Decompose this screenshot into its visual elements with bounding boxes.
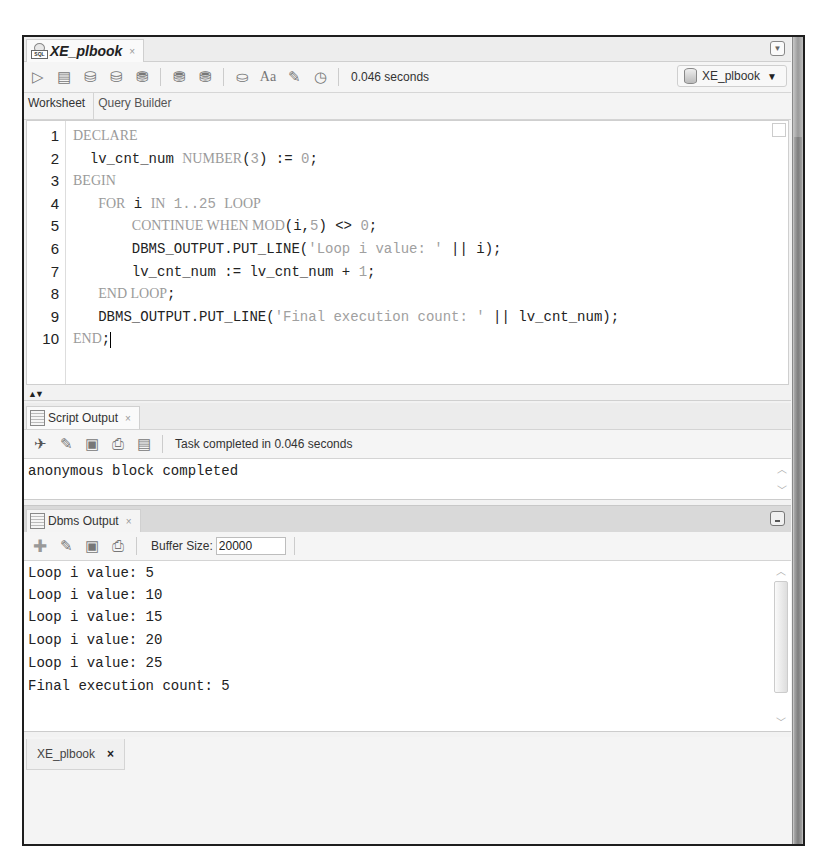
scroll-down-icon[interactable]: ﹀ <box>773 714 789 729</box>
format-case-icon[interactable]: Aa <box>258 67 278 87</box>
output-line: Loop i value: 5 <box>28 565 154 581</box>
database-icon <box>684 68 697 84</box>
code-line[interactable]: END; <box>73 331 111 347</box>
sql-worksheet-icon: SQL <box>31 43 47 59</box>
code-token: DBMS_OUTPUT.PUT_LINE( <box>132 241 308 257</box>
dbms-output-scrollbar[interactable]: ︿ ﹀ <box>773 563 789 729</box>
save-icon[interactable]: ▣ <box>82 434 102 454</box>
code-token: ; <box>309 151 317 167</box>
close-icon[interactable]: × <box>125 413 131 424</box>
code-line[interactable]: DECLARE <box>73 128 138 144</box>
keyword-token: DECLARE <box>73 128 138 143</box>
code-line[interactable]: END LOOP; <box>73 286 175 302</box>
document-tab[interactable]: SQL XE_plbook × <box>26 39 144 62</box>
autotrace-icon[interactable]: ⛃ <box>169 67 189 87</box>
line-number: 5 <box>51 217 59 234</box>
line-number: 1 <box>51 127 59 144</box>
code-line[interactable]: CONTINUE WHEN MOD(i,5) <> 0; <box>73 218 377 234</box>
toolbar-separator <box>294 537 295 555</box>
sql-tuning-icon[interactable]: ⛃ <box>195 67 215 87</box>
script-output-scrollbar[interactable]: ︿ ﹀ <box>775 461 789 497</box>
literal-token: 'Final execution count: ' <box>275 309 485 325</box>
toolbar-separator <box>223 68 224 86</box>
dropdown-arrow-icon[interactable]: ▼ <box>770 41 785 56</box>
run-statement-icon[interactable]: ▷ <box>28 67 48 87</box>
scrollbar-thumb[interactable] <box>774 581 788 693</box>
code-line[interactable]: DBMS_OUTPUT.PUT_LINE('Loop i value: ' ||… <box>73 241 501 257</box>
literal-token: 1 <box>359 264 367 280</box>
connection-label: XE_plbook <box>702 69 760 83</box>
code-editor[interactable]: 12345678910 DECLARE lv_cnt_num NUMBER(3)… <box>26 120 789 385</box>
indent <box>73 309 98 325</box>
close-icon[interactable]: × <box>129 46 135 57</box>
indent <box>73 241 132 257</box>
indent <box>73 151 90 167</box>
connection-tab-bar: XE_plbook × <box>24 737 791 844</box>
tab-connection[interactable]: XE_plbook × <box>26 739 125 770</box>
splitter-arrows-icon[interactable]: ▲▼ <box>28 389 42 399</box>
script-output-tab-bar: Script Output × <box>24 403 791 430</box>
code-token: lv_cnt_num <box>90 151 182 167</box>
commit-icon[interactable]: ⛁ <box>80 67 100 87</box>
print-icon[interactable]: ⎙ <box>108 434 128 454</box>
code-line[interactable]: BEGIN <box>73 173 116 189</box>
tab-dbms-output[interactable]: Dbms Output × <box>26 509 141 532</box>
save-icon[interactable]: ▣ <box>82 536 102 556</box>
explain-plan-icon[interactable]: ⛃ <box>132 67 152 87</box>
tab-label: Script Output <box>48 411 118 425</box>
indent <box>73 196 98 212</box>
sql-history-icon[interactable]: ⛀ <box>232 67 252 87</box>
code-line[interactable]: FOR i IN 1..25 LOOP <box>73 196 261 212</box>
clear-eraser-icon[interactable]: ✎ <box>284 67 304 87</box>
buffer-size-input[interactable] <box>216 537 286 555</box>
script-output-body[interactable]: anonymous block completed ︿ ﹀ <box>24 459 791 500</box>
run-script-icon[interactable]: ▤ <box>134 434 154 454</box>
line-number: 3 <box>51 172 59 189</box>
sql-developer-window: SQL XE_plbook × ▼ ▷ ▤ ⛁ ⛁ ⛃ ⛃ ⛃ ⛀ Aa ✎ ◷… <box>22 35 805 846</box>
clear-eraser-icon[interactable]: ✎ <box>56 434 76 454</box>
tab-query-builder[interactable]: Query Builder <box>94 93 179 119</box>
outer-scrollbar[interactable] <box>792 37 803 844</box>
keyword-token: END LOOP <box>98 286 167 301</box>
toolbar-separator <box>338 68 339 86</box>
keyword-token: NUMBER <box>182 151 242 166</box>
document-tab-title: XE_plbook <box>50 43 122 59</box>
pin-icon[interactable]: ✈ <box>30 434 50 454</box>
script-output-icon <box>30 410 45 426</box>
tab-script-output[interactable]: Script Output × <box>26 406 140 429</box>
connection-select[interactable]: XE_plbook ▼ <box>677 65 787 87</box>
output-line: Loop i value: 25 <box>28 655 162 671</box>
keyword-token: END <box>73 331 102 346</box>
scroll-up-icon[interactable]: ︿ <box>775 461 789 476</box>
code-line[interactable]: lv_cnt_num := lv_cnt_num + 1; <box>73 264 375 280</box>
close-icon[interactable]: × <box>126 516 132 527</box>
toolbar-separator <box>162 435 163 453</box>
scroll-up-icon[interactable]: ︿ <box>773 563 789 578</box>
code-line[interactable]: lv_cnt_num NUMBER(3) := 0; <box>73 151 318 167</box>
buffer-size-label: Buffer Size: <box>151 539 213 553</box>
dbms-output-body[interactable]: Loop i value: 5 Loop i value: 10 Loop i … <box>24 561 791 732</box>
tab-label: Dbms Output <box>48 514 119 528</box>
code-token: || lv_cnt_num); <box>485 309 619 325</box>
output-line: Loop i value: 15 <box>28 609 162 625</box>
monitor-session-icon[interactable]: ◷ <box>310 67 330 87</box>
output-line: anonymous block completed <box>28 463 238 479</box>
literal-token: 'Loop i value: ' <box>308 241 442 257</box>
close-icon[interactable]: × <box>107 747 114 761</box>
output-line: Loop i value: 20 <box>28 632 162 648</box>
code-token: lv_cnt_num := lv_cnt_num + <box>132 264 359 280</box>
code-line[interactable]: DBMS_OUTPUT.PUT_LINE('Final execution co… <box>73 309 619 325</box>
line-number: 6 <box>51 240 59 257</box>
code-token: (i, <box>285 218 310 234</box>
tab-worksheet[interactable]: Worksheet <box>24 93 94 119</box>
editor-scroll-corner[interactable] <box>772 123 786 137</box>
minimize-icon[interactable] <box>770 511 785 526</box>
outer-scrollbar-thumb[interactable] <box>794 137 802 844</box>
dbms-output-tab-bar: Dbms Output × <box>24 505 791 533</box>
print-icon[interactable]: ⎙ <box>108 536 128 556</box>
scroll-down-icon[interactable]: ﹀ <box>775 482 789 497</box>
rollback-icon[interactable]: ⛁ <box>106 67 126 87</box>
clear-eraser-icon[interactable]: ✎ <box>56 536 76 556</box>
run-script-icon[interactable]: ▤ <box>54 67 74 87</box>
enable-add-icon[interactable]: ✚ <box>30 536 50 556</box>
